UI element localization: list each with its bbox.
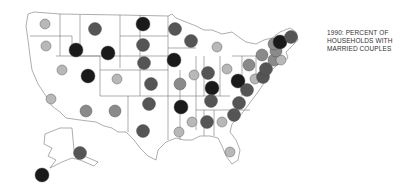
state-circle-az (80, 105, 92, 117)
state-circle-pa (243, 59, 255, 71)
state-circle-id (69, 43, 83, 57)
state-circle-nd (136, 17, 150, 31)
state-circle-tn (205, 95, 218, 108)
state-circle-nc (233, 97, 246, 110)
state-circle-mo (174, 78, 186, 90)
state-circle-nv (57, 65, 67, 75)
state-circle-ny (256, 49, 268, 61)
state-circle-sc (228, 109, 241, 122)
state-circle-ne (138, 57, 151, 70)
state-circle-al (201, 116, 214, 129)
state-circle-sd (137, 39, 150, 52)
state-circle-mi (212, 42, 222, 52)
state-circle-va (241, 84, 254, 97)
state-circle-wa (40, 19, 50, 29)
state-circle-la (174, 127, 184, 137)
title-line-1: 1990: PERCENT OF (327, 29, 392, 37)
state-circle-ar (174, 100, 188, 114)
state-circle-tx (137, 125, 150, 138)
state-circle-ok (143, 98, 156, 111)
state-circle-me (285, 31, 298, 44)
state-circle-or (41, 41, 51, 51)
state-circle-wy (101, 46, 115, 60)
state-circle-mt (89, 23, 102, 36)
state-circle-in (202, 67, 215, 80)
state-circle-ms (187, 117, 197, 127)
state-circle-ks (145, 78, 158, 91)
state-circle-ak (74, 147, 87, 160)
state-circle-fl (225, 147, 235, 157)
us-map (0, 0, 415, 184)
state-circle-mn (169, 23, 182, 36)
state-circle-ia (167, 53, 181, 67)
state-circle-wi (185, 35, 198, 48)
map-title: 1990: PERCENT OF HOUSEHOLDS WITH MARRIED… (327, 29, 392, 53)
state-circle-ga (217, 117, 227, 127)
state-circle-hi (35, 168, 49, 182)
state-outlines (26, 12, 298, 168)
title-line-2: HOUSEHOLDS WITH (327, 37, 392, 45)
title-line-3: MARRIED COUPLES (327, 45, 392, 53)
state-circle-oh (222, 64, 232, 74)
state-circle-nm (109, 105, 121, 117)
state-circle-ca (46, 94, 56, 104)
state-circle-il (189, 70, 199, 80)
state-circle-ut (81, 69, 95, 83)
state-circle-ky (205, 81, 219, 95)
state-circle-co (112, 74, 122, 84)
